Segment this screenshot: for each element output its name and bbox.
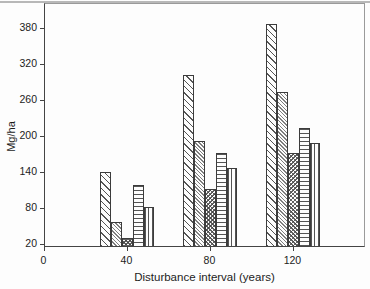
bar-diagonal-hatch-fine-120 — [277, 92, 288, 246]
bar-crosshatch-120 — [288, 153, 299, 246]
bar-vertical-hatch-80 — [227, 168, 238, 246]
y-tick-label: 200 — [9, 130, 37, 141]
x-tick-label: 120 — [277, 255, 307, 266]
x-axis-tick — [210, 247, 211, 251]
y-tick-label: 80 — [9, 202, 37, 213]
y-tick-label: 320 — [9, 58, 37, 69]
bar-diagonal-hatch-fine-80 — [194, 141, 205, 246]
y-tick-label: 380 — [9, 22, 37, 33]
bar-diagonal-hatch-coarse-120 — [266, 24, 277, 246]
bar-horizontal-hatch-80 — [216, 153, 227, 246]
y-axis-tick — [40, 100, 44, 101]
x-axis-tick — [127, 247, 128, 251]
bar-crosshatch-40 — [122, 238, 133, 246]
y-axis-tick — [40, 136, 44, 137]
y-axis-tick — [40, 64, 44, 65]
bar-horizontal-hatch-40 — [133, 185, 144, 246]
bar-chart-figure: d: total floor mass at the end (year 240… — [0, 0, 370, 289]
x-axis-tick — [293, 247, 294, 251]
y-tick-label: 20 — [9, 238, 37, 249]
y-axis-tick — [40, 28, 44, 29]
x-axis-label: Disturbance interval (years) — [44, 271, 365, 283]
x-axis-tick — [44, 247, 45, 251]
y-axis-tick — [40, 172, 44, 173]
x-tick-label: 0 — [29, 255, 59, 266]
y-axis-tick — [40, 244, 44, 245]
plot-area — [44, 3, 365, 247]
bar-horizontal-hatch-120 — [299, 128, 310, 246]
x-tick-label: 80 — [194, 255, 224, 266]
y-axis-tick — [40, 208, 44, 209]
bar-crosshatch-80 — [205, 189, 216, 246]
bar-vertical-hatch-40 — [144, 207, 155, 246]
bar-diagonal-hatch-coarse-80 — [183, 75, 194, 246]
bar-vertical-hatch-120 — [310, 143, 321, 246]
y-tick-label: 260 — [9, 94, 37, 105]
y-tick-label: 140 — [9, 166, 37, 177]
bar-diagonal-hatch-coarse-40 — [100, 172, 111, 246]
bar-diagonal-hatch-fine-40 — [111, 222, 122, 246]
x-tick-label: 40 — [111, 255, 141, 266]
